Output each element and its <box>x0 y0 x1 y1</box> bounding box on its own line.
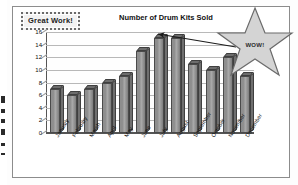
worksheet-page: Great Work! Number of Drum Kits Sold 024… <box>0 0 298 185</box>
bar-face <box>240 76 250 133</box>
y-axis-tick-label: 8 <box>16 80 42 86</box>
bar <box>102 83 112 134</box>
wow-star: WOW! <box>214 6 296 78</box>
y-axis-tick-label: 12 <box>16 54 42 60</box>
y-axis-tick-label: 0 <box>16 130 42 136</box>
bar-side <box>146 47 150 132</box>
y-axis-tick-label: 2 <box>16 117 42 123</box>
bar-side <box>129 73 133 133</box>
x-axis-labels: JanuaryFebruaryMarchAprilMayJuneJulyAugu… <box>46 135 254 183</box>
y-axis-tick-label: 10 <box>16 67 42 73</box>
y-axis-tick-label: 6 <box>16 92 42 98</box>
bar <box>240 76 250 133</box>
bar-face <box>136 51 146 133</box>
scan-edge-artifact <box>0 0 7 185</box>
y-axis-tick-label: 4 <box>16 105 42 111</box>
star-label: WOW! <box>214 42 296 48</box>
bar-face <box>119 76 129 133</box>
y-axis-tick-label: 14 <box>16 42 42 48</box>
bar <box>206 70 216 133</box>
bar <box>136 51 146 133</box>
great-work-stamp: Great Work! <box>21 12 80 30</box>
y-axis-tick-label: 16 <box>16 29 42 35</box>
bar-face <box>102 83 112 134</box>
bar-face <box>206 70 216 133</box>
bar <box>119 76 129 133</box>
